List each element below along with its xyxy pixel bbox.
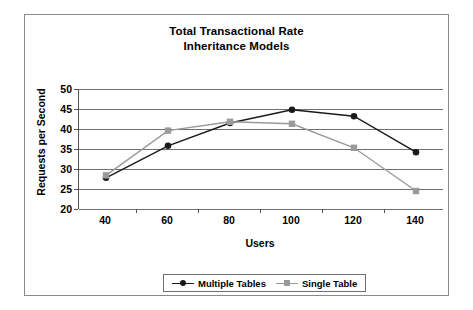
y-tick-label: 50 [46,83,72,95]
series-layer [79,89,443,209]
data-point [289,107,296,114]
y-tick-label: 25 [46,183,72,195]
page-title: Total Transactional Rate Inheritance Mod… [24,24,449,54]
data-point [227,119,233,125]
legend-item: Multiple Tables [172,278,266,289]
data-point [351,145,357,151]
data-point [165,143,172,150]
x-tick-label: 140 [395,214,435,226]
data-point [103,172,109,178]
y-tick-label: 35 [46,143,72,155]
x-tick-label: 100 [271,214,311,226]
legend-label: Single Table [302,278,357,289]
x-tick-mark [384,209,385,213]
series-line-multiple-tables [106,110,416,178]
series-line-single-table [106,122,416,191]
y-tick-label: 45 [46,103,72,115]
legend-label: Multiple Tables [198,278,266,289]
y-tick-mark [74,209,78,210]
x-tick-label: 40 [85,214,125,226]
data-point [351,113,358,120]
legend-square-icon [276,278,298,288]
data-point [413,149,420,156]
data-point [413,188,419,194]
plot-area [78,89,442,209]
chart-title-line-2: Inheritance Models [24,39,449,54]
legend: Multiple TablesSingle Table [163,274,366,292]
x-tick-mark [198,209,199,213]
x-tick-label: 120 [333,214,373,226]
data-point [165,127,171,133]
y-tick-label: 20 [46,203,72,215]
y-tick-mark [74,109,78,110]
y-tick-label: 40 [46,123,72,135]
y-tick-mark [74,169,78,170]
x-tick-label: 80 [209,214,249,226]
legend-item: Single Table [276,278,357,289]
x-tick-mark [322,209,323,213]
y-tick-label: 30 [46,163,72,175]
y-tick-mark [74,189,78,190]
data-point [289,121,295,127]
x-axis-label: Users [78,237,442,249]
x-tick-mark [136,209,137,213]
chart-title-line-1: Total Transactional Rate [24,24,449,39]
y-tick-mark [74,149,78,150]
chart-figure: Total Transactional Rate Inheritance Mod… [0,0,473,310]
x-tick-mark [260,209,261,213]
y-tick-mark [74,129,78,130]
y-tick-mark [74,89,78,90]
x-tick-label: 60 [147,214,187,226]
legend-circle-icon [172,278,194,288]
gridline [79,209,443,210]
